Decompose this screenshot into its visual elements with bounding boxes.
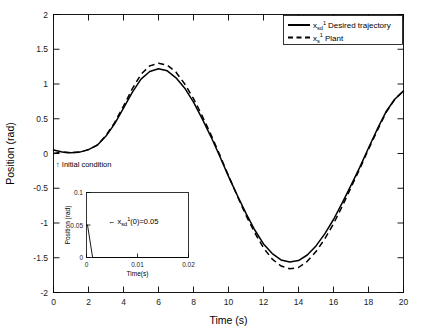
inset-y-tick-label: 0 xyxy=(79,254,83,261)
x-axis-title: Time (s) xyxy=(209,314,247,326)
chart-svg: 2 1.5 1 0.5 0 -0.5 -1 -1.5 -2 0 2 4 6 8 … xyxy=(0,0,421,336)
y-tick-label: 2 xyxy=(43,10,48,20)
inset-annotation-arrow: ← xyxy=(108,217,116,226)
x-tick-label: 18 xyxy=(364,297,374,307)
y-tick-label: -1.5 xyxy=(33,253,48,263)
x-tick-label: 20 xyxy=(399,297,409,307)
y-tick-label: -0.5 xyxy=(33,183,48,193)
x-tick-label: 10 xyxy=(224,297,234,307)
y-tick-label: 1 xyxy=(43,79,48,89)
inset-y-tick-label: 0.1 xyxy=(74,189,83,196)
y-tick-label: 0 xyxy=(43,149,48,159)
inset-x-axis-title: Time(s) xyxy=(127,270,149,278)
legend: xsd1Desired trajectory xs1Plant xyxy=(284,16,403,45)
inset-axes: 0.1 0.05 0 0 0.01 0.02 Time(s) Position … xyxy=(60,186,195,278)
y-tick-label: -2 xyxy=(40,288,48,298)
y-tick-label: -1 xyxy=(40,218,48,228)
x-tick-label: 6 xyxy=(156,297,161,307)
x-tick-label: 12 xyxy=(259,297,269,307)
inset-x-tick-label: 0.01 xyxy=(131,261,144,268)
inset-y-tick-label: 0.05 xyxy=(70,222,83,229)
inset-x-tick-label: 0.02 xyxy=(182,261,195,268)
y-tick-label: 0.5 xyxy=(36,114,48,124)
x-tick-label: 8 xyxy=(191,297,196,307)
x-tick-label: 14 xyxy=(294,297,304,307)
inset-y-axis-title: Position (rad) xyxy=(64,206,72,245)
x-tick-label: 4 xyxy=(121,297,126,307)
initial-condition-annotation: ↑ Initial condition xyxy=(56,160,111,169)
y-axis-title: Position (rad) xyxy=(4,122,16,184)
inset-x-tick-label: 0 xyxy=(85,261,89,268)
figure-container: 2 1.5 1 0.5 0 -0.5 -1 -1.5 -2 0 2 4 6 8 … xyxy=(0,0,421,336)
x-tick-label: 0 xyxy=(51,297,56,307)
x-tick-label: 16 xyxy=(329,297,339,307)
x-tick-label: 2 xyxy=(86,297,91,307)
y-tick-label: 1.5 xyxy=(36,44,48,54)
